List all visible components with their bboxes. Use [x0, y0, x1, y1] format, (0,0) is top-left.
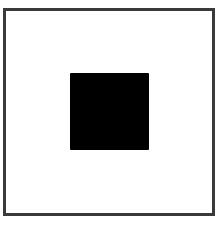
inner-filled-square: [70, 73, 149, 150]
